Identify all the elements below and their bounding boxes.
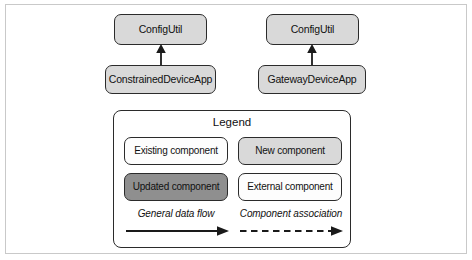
node-label: ConfigUtil — [291, 24, 335, 35]
legend-swatch-label: Existing component — [134, 146, 218, 156]
legend-solid-arrow-icon — [126, 225, 230, 237]
legend-title: Legend — [114, 116, 350, 128]
legend-swatch-label: New component — [255, 146, 325, 156]
edge-gatewaydeviceapp-to-configutil — [304, 44, 320, 66]
node-configutil-right[interactable]: ConfigUtil — [266, 14, 359, 45]
node-label: GatewayDeviceApp — [267, 74, 356, 85]
legend-swatch-external-component: External component — [238, 173, 342, 201]
legend-dashed-arrow-icon — [240, 225, 344, 237]
legend-swatch-new-component: New component — [238, 137, 342, 165]
node-constraineddeviceapp[interactable]: ConstrainedDeviceApp — [105, 65, 216, 94]
node-configutil-left[interactable]: ConfigUtil — [114, 14, 207, 45]
legend-label-component-association: Component association — [234, 208, 348, 219]
node-label: ConstrainedDeviceApp — [109, 74, 212, 85]
edge-constraineddeviceapp-to-configutil — [153, 44, 169, 66]
legend-label-general-data-flow: General data flow — [120, 208, 232, 219]
legend-panel: Legend Existing component New component … — [113, 110, 351, 248]
legend-swatch-existing-component: Existing component — [124, 137, 228, 165]
node-gatewaydeviceapp[interactable]: GatewayDeviceApp — [258, 65, 366, 94]
node-label: ConfigUtil — [139, 24, 183, 35]
legend-swatch-label: External component — [247, 182, 332, 192]
legend-swatch-updated-component: Updated component — [124, 173, 228, 201]
legend-swatch-label: Updated component — [133, 182, 220, 192]
diagram-canvas: ConfigUtil ConstrainedDeviceApp ConfigUt… — [0, 0, 472, 260]
